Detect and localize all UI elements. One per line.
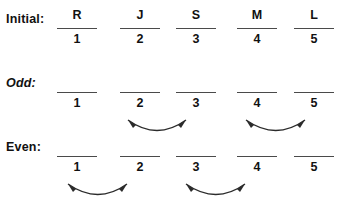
slot-rule-initial-3 — [176, 28, 216, 29]
slot-value-initial-5: L — [292, 8, 336, 22]
slot-even-1: 1 — [55, 140, 99, 186]
slot-rule-initial-4 — [237, 28, 277, 29]
slot-index-odd-3: 3 — [174, 96, 218, 110]
slot-index-even-4: 4 — [235, 160, 279, 174]
slot-index-even-2: 2 — [118, 160, 162, 174]
slot-value-initial-4: M — [235, 8, 279, 22]
slot-odd-3: 3 — [174, 76, 218, 122]
slot-rule-odd-3 — [176, 92, 216, 93]
row-label-even: Even: — [6, 140, 41, 154]
slot-index-odd-1: 1 — [55, 96, 99, 110]
slot-rule-odd-5 — [294, 92, 334, 93]
row-label-odd: Odd: — [6, 76, 36, 90]
slot-rule-initial-5 — [294, 28, 334, 29]
slot-index-initial-2: 2 — [118, 32, 162, 46]
slot-rule-odd-1 — [57, 92, 97, 93]
slot-index-odd-5: 5 — [292, 96, 336, 110]
slot-index-odd-4: 4 — [235, 96, 279, 110]
slot-rule-odd-4 — [237, 92, 277, 93]
slot-odd-1: 1 — [55, 76, 99, 122]
slot-initial-3: S 3 — [174, 8, 218, 58]
slot-index-initial-4: 4 — [235, 32, 279, 46]
slot-initial-4: M 4 — [235, 8, 279, 58]
slot-index-even-3: 3 — [174, 160, 218, 174]
slot-rule-even-4 — [237, 156, 277, 157]
slot-even-4: 4 — [235, 140, 279, 186]
slot-even-5: 5 — [292, 140, 336, 186]
slot-initial-5: L 5 — [292, 8, 336, 58]
slot-rule-even-5 — [294, 156, 334, 157]
slot-rule-odd-2 — [120, 92, 160, 93]
slot-initial-1: R 1 — [55, 8, 99, 58]
slot-odd-5: 5 — [292, 76, 336, 122]
slot-initial-2: J 2 — [118, 8, 162, 58]
slot-value-initial-3: S — [174, 8, 218, 22]
slot-rule-even-1 — [57, 156, 97, 157]
slot-odd-2: 2 — [118, 76, 162, 122]
slot-index-even-1: 1 — [55, 160, 99, 174]
slot-index-initial-3: 3 — [174, 32, 218, 46]
slot-even-2: 2 — [118, 140, 162, 186]
slot-index-odd-2: 2 — [118, 96, 162, 110]
slot-rule-even-2 — [120, 156, 160, 157]
slot-index-initial-1: 1 — [55, 32, 99, 46]
slot-rule-initial-1 — [57, 28, 97, 29]
slot-value-initial-1: R — [55, 8, 99, 22]
slot-index-initial-5: 5 — [292, 32, 336, 46]
slot-value-initial-2: J — [118, 8, 162, 22]
odd-even-transposition-diagram: Initial: R 1 J 2 S 3 M 4 L 5 Odd: — [0, 0, 343, 204]
slot-index-even-5: 5 — [292, 160, 336, 174]
slot-odd-4: 4 — [235, 76, 279, 122]
slot-rule-even-3 — [176, 156, 216, 157]
slot-even-3: 3 — [174, 140, 218, 186]
slot-rule-initial-2 — [120, 28, 160, 29]
row-label-initial: Initial: — [6, 12, 44, 26]
